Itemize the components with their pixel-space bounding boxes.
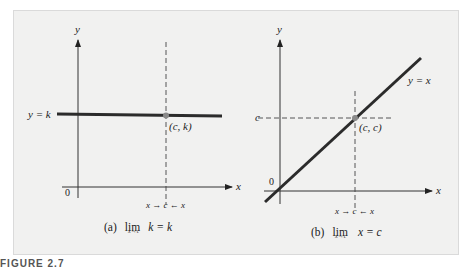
panel-b-y-tick-label: c bbox=[255, 112, 260, 123]
panel-a-x-axis-label: x bbox=[236, 181, 241, 192]
panel-b-approach-label: x → c ← x bbox=[335, 207, 374, 216]
panel-b-graph bbox=[258, 40, 432, 209]
panel-b-identity-line bbox=[265, 58, 421, 202]
panel-a-caption: (a) lim k = k x→c bbox=[104, 216, 172, 235]
panel-a-origin-label: 0 bbox=[65, 188, 70, 198]
panel-b-caption-expr: x = c bbox=[358, 226, 382, 238]
panel-b-line-label: y = x bbox=[408, 75, 431, 86]
panel-b-caption-prefix: (b) bbox=[311, 226, 324, 238]
panel-a-graph bbox=[57, 40, 232, 205]
panel-b-y-axis-label: y bbox=[277, 24, 282, 35]
panel-a-caption-expr: k = k bbox=[148, 221, 172, 233]
panel-b-caption-subscript: x→c bbox=[335, 233, 346, 239]
panel-a-y-axis-label: y bbox=[75, 24, 80, 35]
panel-a-constant-line bbox=[57, 114, 222, 116]
panel-a-point-label: (c, k) bbox=[169, 121, 192, 132]
figure-graphics bbox=[0, 0, 465, 268]
panel-a-line-label: y = k bbox=[28, 109, 51, 120]
panel-a-caption-prefix: (a) bbox=[104, 221, 117, 233]
panel-a-approach-label: x → c ← x bbox=[146, 201, 185, 210]
panel-a-caption-subscript: x→c bbox=[128, 228, 139, 234]
panel-b-x-axis-label: x bbox=[436, 185, 441, 196]
panel-b-point-label: (c, c) bbox=[359, 122, 382, 133]
figure-number-label: FIGURE 2.7 bbox=[0, 258, 64, 268]
panel-b-caption: (b) lim x = c x→c bbox=[311, 221, 382, 240]
panel-b-origin-label: 0 bbox=[269, 177, 274, 187]
panel-b-point bbox=[352, 115, 358, 121]
panel-a-point bbox=[163, 113, 169, 119]
